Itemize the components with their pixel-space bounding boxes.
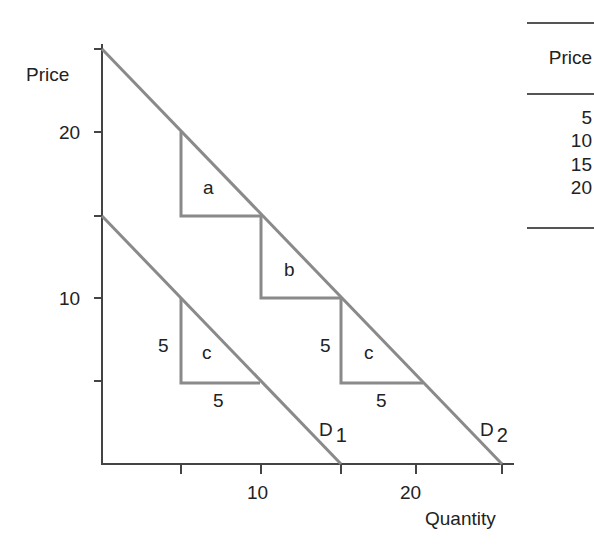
table-header-price: Price bbox=[549, 48, 592, 67]
y-axis-label: Price bbox=[26, 65, 69, 84]
d2-subscript: 2 bbox=[497, 424, 508, 446]
table-header-rule bbox=[527, 93, 594, 95]
table-row: 5 bbox=[581, 108, 592, 127]
x-axis-label: Quantity bbox=[425, 509, 496, 528]
d1-letter: D bbox=[319, 419, 333, 440]
diagram-canvas bbox=[0, 0, 594, 548]
demand-curve-d1 bbox=[102, 216, 341, 464]
table-bottom-rule bbox=[527, 227, 594, 229]
triangle-c-d2-side-label: 5 bbox=[320, 336, 331, 355]
demand-curve-d2 bbox=[102, 49, 502, 464]
y-tick-label-20: 20 bbox=[59, 123, 80, 142]
d2-label: D2 bbox=[480, 419, 508, 439]
table-top-rule bbox=[527, 22, 594, 24]
triangle-c-d2-label: c bbox=[364, 343, 374, 362]
x-tick-label-20: 20 bbox=[400, 483, 421, 502]
triangle-c-d2-base-label: 5 bbox=[376, 391, 387, 410]
triangle-b-label: b bbox=[284, 260, 295, 279]
triangle-a-label: a bbox=[203, 178, 214, 197]
triangle-c-d1-base-label: 5 bbox=[213, 391, 224, 410]
x-ticks bbox=[181, 464, 502, 474]
y-tick-label-10: 10 bbox=[59, 289, 80, 308]
triangle-c-d1-side-label: 5 bbox=[158, 336, 169, 355]
x-tick-label-10: 10 bbox=[247, 483, 268, 502]
table-row: 10 bbox=[571, 131, 592, 150]
triangle-c-d1-label: c bbox=[202, 343, 212, 362]
d2-letter: D bbox=[480, 419, 494, 440]
table-row: 15 bbox=[571, 155, 592, 174]
d1-label: D1 bbox=[319, 419, 347, 439]
d1-subscript: 1 bbox=[336, 424, 347, 446]
y-ticks bbox=[94, 49, 102, 381]
table-row: 20 bbox=[571, 178, 592, 197]
